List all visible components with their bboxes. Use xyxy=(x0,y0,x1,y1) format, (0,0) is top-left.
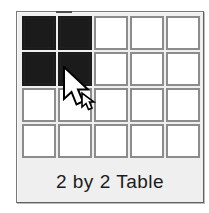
panel-top-notch xyxy=(56,11,72,13)
table-size-cell[interactable] xyxy=(22,16,56,50)
table-size-cell[interactable] xyxy=(166,88,200,122)
table-size-cell[interactable] xyxy=(58,88,92,122)
table-size-cell[interactable] xyxy=(130,16,164,50)
table-size-cell[interactable] xyxy=(166,16,200,50)
table-size-cell[interactable] xyxy=(58,52,92,86)
table-size-cell[interactable] xyxy=(22,52,56,86)
table-size-grid[interactable] xyxy=(22,16,200,158)
table-size-cell[interactable] xyxy=(58,124,92,158)
screen: 2 by 2 Table xyxy=(0,0,209,213)
table-size-cell[interactable] xyxy=(22,124,56,158)
table-size-cell[interactable] xyxy=(94,52,128,86)
table-size-cell[interactable] xyxy=(94,88,128,122)
table-size-cell[interactable] xyxy=(130,124,164,158)
table-size-cell[interactable] xyxy=(166,52,200,86)
table-size-cell[interactable] xyxy=(130,88,164,122)
table-size-picker[interactable]: 2 by 2 Table xyxy=(16,11,204,203)
table-size-caption: 2 by 2 Table xyxy=(17,164,203,200)
table-size-cell[interactable] xyxy=(58,16,92,50)
table-size-cell[interactable] xyxy=(130,52,164,86)
table-size-cell[interactable] xyxy=(166,124,200,158)
table-size-cell[interactable] xyxy=(22,88,56,122)
table-size-cell[interactable] xyxy=(94,124,128,158)
table-size-cell[interactable] xyxy=(94,16,128,50)
